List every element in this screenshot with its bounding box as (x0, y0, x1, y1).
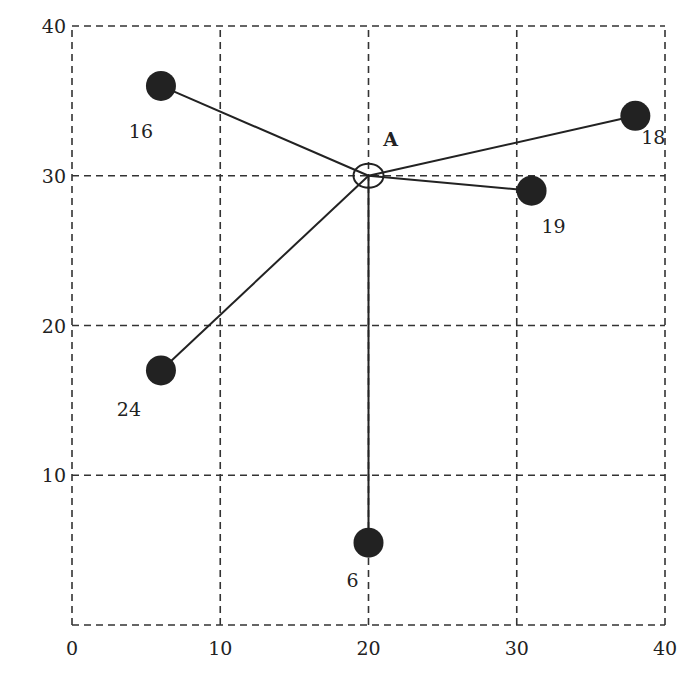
connection-line (161, 86, 369, 176)
point-label: 16 (129, 120, 153, 142)
center-label: A (382, 128, 398, 150)
connection-line (369, 176, 532, 191)
y-tick-label: 20 (42, 315, 66, 337)
y-tick-label: 10 (42, 464, 66, 486)
y-tick-label: 30 (42, 165, 66, 187)
x-tick-label: 30 (505, 637, 529, 659)
connection-line (369, 116, 636, 176)
y-tick-label: 40 (42, 15, 66, 37)
point-label: 6 (346, 569, 358, 591)
data-point (146, 71, 176, 101)
x-tick-label: 20 (356, 637, 380, 659)
point-label: 18 (641, 126, 665, 148)
x-tick-label: 10 (208, 637, 232, 659)
data-point (517, 176, 547, 206)
point-label: 19 (541, 215, 565, 237)
data-point (354, 528, 384, 558)
point-label: 24 (117, 398, 141, 420)
connection-line (161, 176, 369, 371)
x-tick-label: 40 (653, 637, 677, 659)
x-tick-label: 0 (66, 637, 78, 659)
data-point (146, 355, 176, 385)
scatter-diagram: 01020304010203040161819246A (0, 0, 698, 694)
